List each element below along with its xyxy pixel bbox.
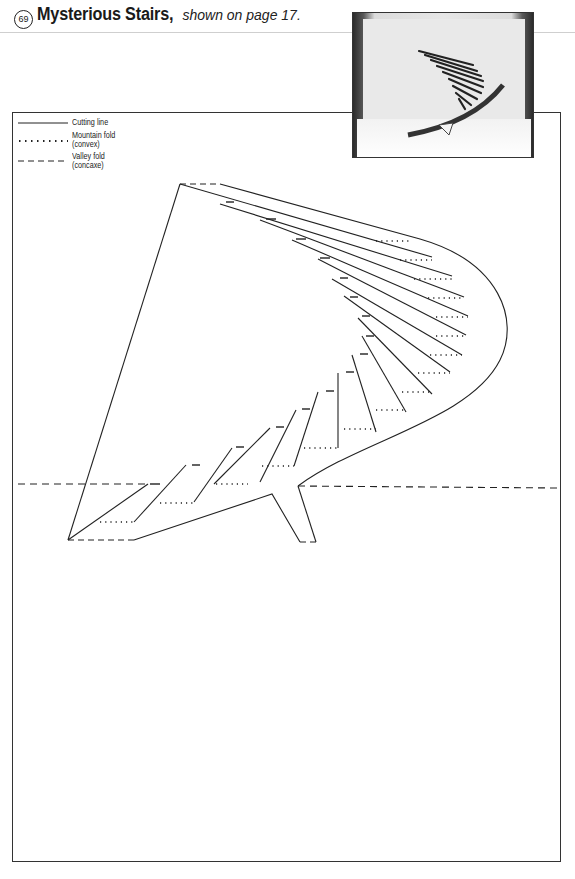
stairs-cutting-diagram bbox=[0, 0, 575, 879]
center-valley-fold bbox=[18, 484, 558, 488]
outer-curve-cut bbox=[68, 184, 507, 542]
stair-mountain-folds bbox=[100, 241, 468, 522]
stair-valley-ticks bbox=[150, 202, 374, 484]
end-valley-folds bbox=[68, 184, 316, 542]
